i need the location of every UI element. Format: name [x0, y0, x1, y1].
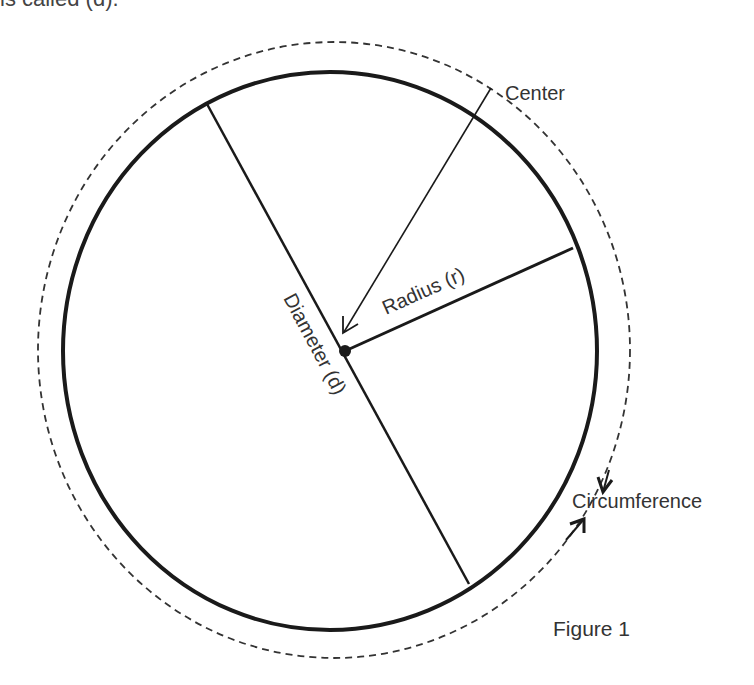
center-point	[339, 345, 351, 357]
center-label: Center	[505, 82, 565, 104]
diameter-line	[207, 104, 469, 584]
radius-label: Radius (r)	[379, 263, 468, 319]
circumference-dashed-ellipse	[38, 42, 630, 658]
circumference-label: Circumference	[572, 490, 702, 512]
diameter-label: Diameter (d)	[279, 290, 351, 398]
circle-diagram: Center Radius (r) Diameter (d) Circumfer…	[0, 0, 754, 685]
figure-caption: Figure 1	[553, 617, 630, 640]
